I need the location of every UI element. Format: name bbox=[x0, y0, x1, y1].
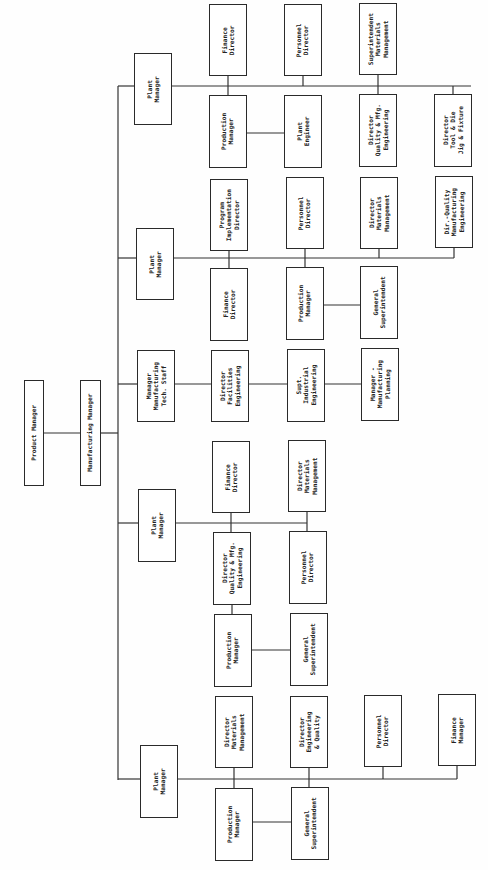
g1-personnel-director-box: Personnel Director bbox=[284, 4, 322, 76]
g1-production-manager-box: Production Manager bbox=[209, 95, 247, 168]
g1-finance-director-label: Finance Director bbox=[221, 25, 236, 55]
g3-manager-mfg-planning-label: Manager - Manufacturing Planning bbox=[369, 360, 391, 408]
g5-director-eng-quality-box: Director Engineering & Quality bbox=[290, 696, 328, 768]
g2-general-superintendent-label: General Superintendent bbox=[372, 276, 387, 328]
g1-superintendent-materials-box: Superintendent Materials Management bbox=[359, 3, 397, 75]
g4-general-superintendent-label: General Superintendent bbox=[302, 623, 317, 675]
plant-manager-1-box: Plant Manager bbox=[134, 53, 172, 125]
g2-production-manager-label: Production Manager bbox=[298, 285, 313, 322]
manufacturing-manager-label: Manufacturing Manager bbox=[87, 394, 94, 472]
g1-director-tool-die-label: Director Tool & Die Jig & Fixture bbox=[442, 106, 464, 154]
g1-director-quality-mfg-box: Director Quality & Mfg. Engineering bbox=[359, 94, 397, 167]
manager-mfg-tech-staff-box: Manager Manufacturing Tech. Staff bbox=[137, 350, 175, 422]
plant-manager-4-box: Plant Manager bbox=[140, 745, 178, 818]
g5-director-materials-box: Director Materials Management bbox=[215, 696, 253, 768]
g4-general-superintendent-box: General Superintendent bbox=[290, 613, 328, 686]
g2-director-materials-label: Director Materials Management bbox=[368, 194, 390, 231]
g4-director-materials-label: Director Materials Management bbox=[296, 457, 318, 494]
g4-finance-director-box: Finance Director bbox=[212, 441, 250, 513]
g1-superintendent-materials-label: Superintendent Materials Management bbox=[367, 13, 389, 65]
g5-finance-manager-box: Finance Manager bbox=[438, 694, 476, 766]
g4-production-manager-label: Production Manager bbox=[226, 632, 241, 669]
g3-director-facilities-label: Director Facilities Engineering bbox=[219, 366, 241, 407]
g3-supt-industrial-label: Supt. Industrial Engineering bbox=[295, 365, 317, 406]
g5-production-manager-box: Production Manager bbox=[215, 788, 253, 861]
manager-mfg-tech-staff-label: Manager Manufacturing Tech. Staff bbox=[145, 362, 167, 410]
g1-production-manager-label: Production Manager bbox=[221, 113, 236, 150]
g5-general-superintendent-label: General Superintendent bbox=[303, 797, 318, 849]
org-chart: Product Manager Manufacturing Manager Pl… bbox=[0, 0, 488, 870]
g4-director-quality-mfg-box: Director Quality & Mfg. Engineering bbox=[213, 532, 251, 605]
g4-personnel-director-label: Personnel Director bbox=[301, 551, 316, 585]
g2-program-implementation-label: Program Implementation Director bbox=[218, 189, 240, 241]
g5-personnel-director-label: Personnel Director bbox=[376, 714, 391, 748]
product-manager-box: Product Manager bbox=[24, 380, 44, 486]
g2-general-superintendent-box: General Superintendent bbox=[360, 266, 398, 339]
g5-general-superintendent-box: General Superintendent bbox=[291, 787, 329, 860]
g3-supt-industrial-box: Supt. Industrial Engineering bbox=[287, 349, 325, 422]
g3-manager-mfg-planning-box: Manager - Manufacturing Planning bbox=[361, 348, 399, 421]
plant-manager-1-label: Plant Manager bbox=[146, 76, 161, 102]
g5-director-materials-label: Director Materials Management bbox=[223, 713, 245, 750]
g1-finance-director-box: Finance Director bbox=[209, 4, 247, 76]
plant-manager-2-box: Plant Manager bbox=[136, 228, 174, 300]
g2-dir-quality-mfg-box: Dir.-Quality Manufacturing Engineering bbox=[435, 176, 473, 248]
g4-director-quality-mfg-label: Director Quality & Mfg. Engineering bbox=[221, 542, 243, 594]
g5-personnel-director-box: Personnel Director bbox=[364, 695, 402, 767]
g4-finance-director-label: Finance Director bbox=[224, 462, 239, 492]
g4-production-manager-box: Production Manager bbox=[214, 614, 252, 687]
plant-manager-3-label: Plant Manager bbox=[150, 512, 165, 538]
g2-personnel-director-label: Personnel Director bbox=[298, 196, 313, 230]
g1-personnel-director-label: Personnel Director bbox=[296, 23, 311, 57]
plant-manager-2-label: Plant Manager bbox=[148, 251, 163, 277]
g1-plant-engineer-box: Plant Engineer bbox=[284, 95, 322, 168]
g4-director-materials-box: Director Materials Management bbox=[288, 440, 326, 512]
plant-manager-4-label: Plant Manager bbox=[152, 768, 167, 794]
g2-program-implementation-box: Program Implementation Director bbox=[210, 179, 248, 251]
g5-director-eng-quality-label: Director Engineering & Quality bbox=[298, 712, 320, 753]
g2-finance-director-box: Finance Director bbox=[210, 268, 248, 341]
g5-finance-manager-label: Finance Manager bbox=[450, 717, 465, 743]
g2-personnel-director-box: Personnel Director bbox=[286, 177, 324, 249]
g2-finance-director-label: Finance Director bbox=[222, 290, 237, 320]
product-manager-label: Product Manager bbox=[30, 405, 37, 461]
g1-plant-engineer-label: Plant Engineer bbox=[296, 117, 311, 147]
g2-dir-quality-mfg-label: Dir.-Quality Manufacturing Engineering bbox=[443, 188, 465, 236]
g4-personnel-director-box: Personnel Director bbox=[289, 531, 327, 604]
g1-director-tool-die-box: Director Tool & Die Jig & Fixture bbox=[434, 94, 472, 167]
g3-director-facilities-box: Director Facilities Engineering bbox=[211, 350, 249, 422]
plant-manager-3-box: Plant Manager bbox=[138, 489, 176, 562]
g1-director-quality-mfg-label: Director Quality & Mfg. Engineering bbox=[367, 104, 389, 156]
g2-director-materials-box: Director Materials Management bbox=[360, 177, 398, 249]
g2-production-manager-box: Production Manager bbox=[286, 267, 324, 340]
manufacturing-manager-box: Manufacturing Manager bbox=[80, 380, 101, 486]
g5-production-manager-label: Production Manager bbox=[227, 806, 242, 843]
